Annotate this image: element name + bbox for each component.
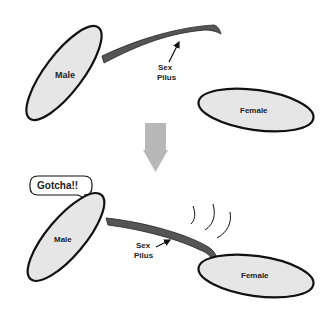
top-sex-pilus — [102, 25, 221, 63]
bottom-pilus-label-line2: Pilus — [134, 251, 154, 260]
bottom-pilus-pointer-arrow — [156, 240, 170, 247]
top-male-label: Male — [55, 70, 75, 80]
top-pilus-label-line1: Sex — [158, 63, 173, 72]
bottom-panel: Gotcha!! Male Sex Pilus Female — [16, 176, 316, 304]
bottom-sex-pilus — [106, 218, 218, 262]
conjugation-diagram: Male Sex Pilus Female Gotcha!! Male Sex … — [0, 0, 330, 315]
top-female-label: Female — [240, 106, 268, 115]
bottom-male-label: Male — [54, 235, 72, 244]
top-panel: Male Sex Pilus Female — [15, 16, 317, 138]
top-pilus-label-line2: Pilus — [157, 73, 177, 82]
speech-bubble-text: Gotcha!! — [37, 180, 78, 191]
down-arrow-icon — [143, 123, 168, 172]
top-pilus-pointer-arrow — [169, 42, 179, 62]
bottom-pilus-label-line1: Sex — [136, 241, 151, 250]
bottom-female-label: Female — [241, 271, 269, 280]
vibration-lines-icon — [191, 204, 230, 238]
